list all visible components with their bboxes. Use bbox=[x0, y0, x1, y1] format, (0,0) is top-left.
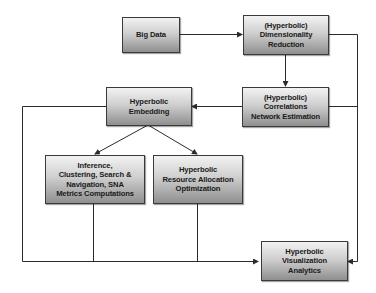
node-label-line: Reduction bbox=[260, 40, 313, 49]
node-visualization-analytics: Hyperbolic Visualization Analytics bbox=[261, 241, 348, 281]
node-label-line: Hyperbolic bbox=[162, 165, 233, 174]
node-label-line: Embedding bbox=[129, 107, 169, 116]
node-label-line: Big Data bbox=[136, 30, 166, 39]
node-label-line: Analytics bbox=[282, 266, 327, 275]
node-label-line: Navigation, SNA bbox=[56, 180, 134, 189]
node-label-line: Hyperbolic bbox=[129, 97, 169, 106]
node-label-line: (Hyperbolic) bbox=[260, 21, 313, 30]
node-label-line: Optimization bbox=[162, 184, 233, 193]
node-correlations-network-estimation: (Hyperbolic) Correlations Network Estima… bbox=[242, 87, 329, 127]
node-resource-allocation: Hyperbolic Resource Allocation Optimizat… bbox=[153, 155, 243, 204]
node-label-line: Hyperbolic bbox=[282, 247, 327, 256]
edge-dimred-vis bbox=[328, 35, 358, 262]
node-label-line: Resource Allocation bbox=[162, 175, 233, 184]
node-hyperbolic-embedding: Hyperbolic Embedding bbox=[106, 87, 192, 126]
edge-embed-resource bbox=[148, 125, 197, 154]
node-inference-clustering: Inference, Clustering, Search & Navigati… bbox=[45, 155, 145, 204]
node-label-line: Correlations bbox=[251, 102, 320, 111]
node-label-line: Clustering, Search & bbox=[56, 170, 134, 179]
node-label-line: Network Estimation bbox=[251, 112, 320, 121]
edge-embed-inference bbox=[95, 125, 148, 154]
node-big-data: Big Data bbox=[122, 17, 180, 53]
node-label-line: Dimensionality bbox=[260, 30, 313, 39]
node-label-line: (Hyperbolic) bbox=[251, 93, 320, 102]
node-dimensionality-reduction: (Hyperbolic) Dimensionality Reduction bbox=[243, 15, 329, 55]
node-label-line: Visualization bbox=[282, 256, 327, 265]
node-label-line: Metrics Computations bbox=[56, 189, 134, 198]
node-label-line: Inference, bbox=[56, 161, 134, 170]
